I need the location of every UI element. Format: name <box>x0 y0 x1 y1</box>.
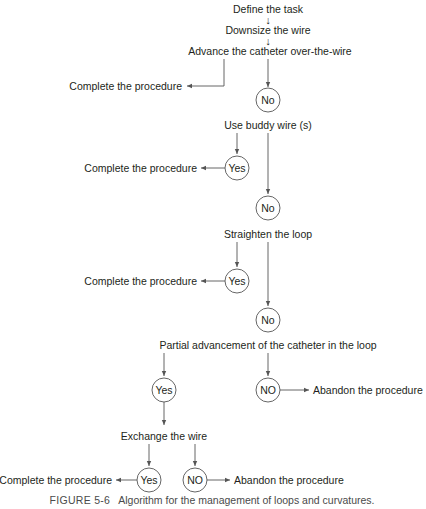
decision-yes-1: Yes <box>228 162 245 174</box>
decision-yes-3: Yes <box>155 384 172 396</box>
figure-caption-text: Algorithm for the management of loops an… <box>118 494 374 506</box>
arrow-to-complete-1 <box>187 59 224 86</box>
decision-no-2: No <box>261 202 275 214</box>
outcome-abandon-1: Abandon the procedure <box>313 384 423 396</box>
outcome-complete-2: Complete the procedure <box>84 162 197 174</box>
decision-yes-2: Yes <box>228 275 245 287</box>
flowchart: Define the task ↓ Downsize the wire ↓ Ad… <box>0 0 426 509</box>
decision-yes-4: Yes <box>140 474 157 486</box>
outcome-abandon-2: Abandon the procedure <box>234 474 344 486</box>
step-advance-catheter: Advance the catheter over-the-wire <box>188 45 352 57</box>
figure-caption: FIGURE 5-6Algorithm for the management o… <box>50 494 375 506</box>
step-partial-advancement: Partial advancement of the catheter in t… <box>159 339 376 351</box>
outcome-complete-1: Complete the procedure <box>69 80 182 92</box>
decision-no-5: NO <box>187 474 203 486</box>
decision-no-4: NO <box>260 384 276 396</box>
decision-no-3: No <box>261 314 275 326</box>
outcome-complete-4: Complete the procedure <box>0 474 112 486</box>
figure-label: FIGURE 5-6 <box>50 494 111 506</box>
decision-no-1: No <box>261 94 275 106</box>
step-straighten-loop: Straighten the loop <box>224 228 312 240</box>
step-exchange-wire: Exchange the wire <box>121 430 208 442</box>
step-use-buddy-wire: Use buddy wire (s) <box>224 119 312 131</box>
outcome-complete-3: Complete the procedure <box>84 275 197 287</box>
